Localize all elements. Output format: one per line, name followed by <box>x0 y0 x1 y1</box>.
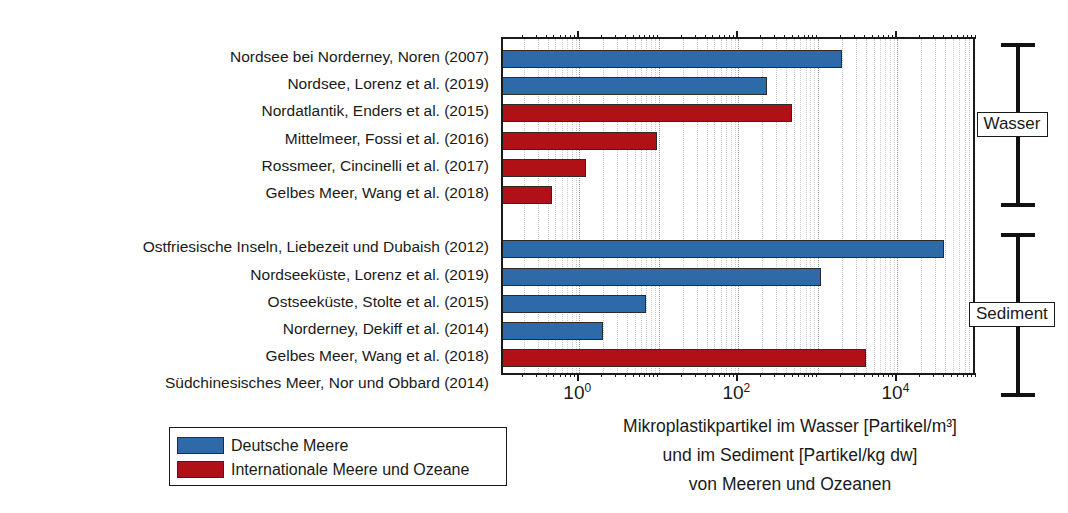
bar-sediment-6 <box>502 240 944 258</box>
x-tick-minor <box>872 35 873 39</box>
x-tick-minor <box>570 35 571 39</box>
category-label: Norderney, Dekiff et al. (2014) <box>283 321 489 337</box>
x-tick-minor <box>546 35 547 39</box>
x-tick-minor <box>878 35 879 39</box>
x-tick-minor <box>705 373 706 377</box>
x-tick-minor <box>560 373 561 377</box>
x-tick-minor <box>975 35 976 39</box>
x-tick-minor <box>919 373 920 377</box>
x-tick-minor <box>522 373 523 377</box>
chart-legend: Deutsche MeereInternationale Meere und O… <box>169 427 507 486</box>
bar-wasser-2 <box>502 104 792 122</box>
x-tick-minor <box>649 35 650 39</box>
x-tick-minor <box>522 35 523 39</box>
category-label: Nordatlantik, Enders et al. (2015) <box>262 103 489 119</box>
chart-figure: Nordsee bei Norderney, Noren (2007)Nords… <box>0 0 1068 513</box>
x-tick-minor <box>933 373 934 377</box>
bar-sediment-10 <box>502 349 866 367</box>
category-label: Ostfriesische Inseln, Liebezeit und Duba… <box>143 239 489 255</box>
category-label: Nordseeküste, Lorenz et al. (2019) <box>250 267 489 283</box>
x-tick-minor <box>854 373 855 377</box>
x-tick-minor <box>774 35 775 39</box>
x-tick-minor <box>570 373 571 377</box>
x-tick-minor <box>812 373 813 377</box>
x-tick-major <box>895 373 897 381</box>
x-tick-minor <box>971 35 972 39</box>
x-tick-minor <box>553 373 554 377</box>
bar-sediment-8 <box>502 295 646 313</box>
bracket-cap-top <box>1001 233 1035 237</box>
x-tick-minor <box>601 35 602 39</box>
x-tick-minor <box>943 373 944 377</box>
x-tick-minor <box>633 35 634 39</box>
category-label: Nordsee bei Norderney, Noren (2007) <box>230 49 489 65</box>
x-tick-minor <box>639 35 640 39</box>
category-label: Gelbes Meer, Wang et al. (2018) <box>266 185 489 201</box>
x-tick-minor <box>681 35 682 39</box>
x-tick-minor <box>719 373 720 377</box>
category-label: Rossmeer, Cincinelli et al. (2017) <box>262 158 489 174</box>
axis-title-line: Mikroplastikpartikel im Wasser [Partikel… <box>512 412 1068 441</box>
x-tick-minor <box>943 35 944 39</box>
x-tick-minor <box>760 373 761 377</box>
legend-item-0: Deutsche Meere <box>177 433 500 457</box>
legend-swatch <box>177 437 224 454</box>
x-tick-minor <box>695 35 696 39</box>
x-tick-major <box>577 373 579 381</box>
x-tick-minor <box>719 35 720 39</box>
x-tick-minor <box>633 373 634 377</box>
x-tick-minor <box>681 373 682 377</box>
category-axis-labels: Nordsee bei Norderney, Noren (2007)Nords… <box>0 37 496 377</box>
x-tick-minor <box>967 35 968 39</box>
x-tick-minor <box>816 35 817 39</box>
x-tick-major <box>895 31 897 39</box>
x-tick-minor <box>854 35 855 39</box>
x-tick-minor <box>840 373 841 377</box>
x-tick-minor <box>657 373 658 377</box>
plot-area <box>501 37 975 375</box>
x-tick-minor <box>798 35 799 39</box>
x-tick-major <box>736 31 738 39</box>
x-tick-minor <box>883 373 884 377</box>
x-tick-minor <box>760 35 761 39</box>
x-tick-minor <box>733 35 734 39</box>
x-tick-minor <box>804 373 805 377</box>
x-tick-minor <box>574 373 575 377</box>
bar-sediment-9 <box>502 322 603 340</box>
x-tick-minor <box>729 373 730 377</box>
bracket-label-wasser: Wasser <box>977 112 1048 137</box>
x-tick-minor <box>804 35 805 39</box>
bracket-cap-bottom <box>1001 203 1035 207</box>
bar-sediment-7 <box>502 268 821 286</box>
x-tick-minor <box>615 35 616 39</box>
legend-swatch <box>177 461 224 478</box>
bracket-cap-top <box>1001 43 1035 47</box>
x-tick-minor <box>963 35 964 39</box>
x-tick-minor <box>792 373 793 377</box>
x-tick-minor <box>536 373 537 377</box>
bracket-label-sediment: Sediment <box>969 302 1055 327</box>
x-tick-minor <box>695 373 696 377</box>
x-tick-minor <box>892 35 893 39</box>
x-tick-minor <box>784 373 785 377</box>
x-tick-minor <box>888 35 889 39</box>
category-label: Mittelmeer, Fossi et al. (2016) <box>285 131 489 147</box>
x-tick-minor <box>644 35 645 39</box>
x-tick-minor <box>840 35 841 39</box>
x-tick-minor <box>808 373 809 377</box>
x-tick-minor <box>951 373 952 377</box>
x-tick-minor <box>872 373 873 377</box>
x-tick-minor <box>712 373 713 377</box>
category-label: Gelbes Meer, Wang et al. (2018) <box>266 348 489 364</box>
bar-wasser-3 <box>502 132 657 150</box>
legend-label: Deutsche Meere <box>231 437 348 454</box>
bar-wasser-0 <box>502 50 842 68</box>
x-tick-minor <box>933 35 934 39</box>
legend-label: Internationale Meere und Ozeane <box>231 461 469 478</box>
axis-title-line: von Meeren und Ozeanen <box>512 470 1068 499</box>
x-axis-title: Mikroplastikpartikel im Wasser [Partikel… <box>512 412 1068 499</box>
x-tick-minor <box>653 373 654 377</box>
x-tick-minor <box>864 373 865 377</box>
x-tick-label: 104 <box>882 381 910 404</box>
x-tick-minor <box>724 373 725 377</box>
